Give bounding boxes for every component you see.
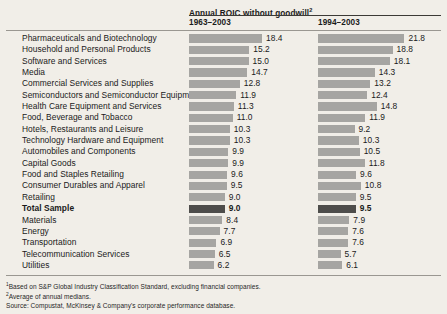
bar <box>189 182 227 190</box>
bar <box>318 205 356 213</box>
bar-value-label: 6.1 <box>346 260 358 271</box>
bar-cell-series-2: 5.7 <box>318 250 440 258</box>
bar-cell-series-2: 14.3 <box>318 68 440 76</box>
bar-cell-series-1: 6.9 <box>189 239 309 247</box>
chart-row: Consumer Durables and Apparel9.510.8 <box>0 180 447 191</box>
bar-cell-series-2: 9.2 <box>318 125 440 133</box>
column-header-period-2: 1994–2003 <box>318 18 360 27</box>
chart-row: Retailing9.09.5 <box>0 192 447 203</box>
chart-row: Capital Goods9.911.8 <box>0 158 447 169</box>
chart-row: Telecommunication Services6.55.7 <box>0 249 447 260</box>
chart-row: Pharmaceuticals and Biotechnology18.421.… <box>0 33 447 44</box>
chart-row-total-sample: Total Sample9.09.5 <box>0 203 447 214</box>
bar <box>318 68 375 76</box>
row-label: Software and Services <box>22 56 107 67</box>
metric-title-text: Annual ROIC without goodwill <box>189 9 309 18</box>
chart-row: Materials8.47.9 <box>0 215 447 226</box>
row-label: Semiconductors and Semiconductor Equipme… <box>22 90 201 101</box>
chart-row: Food and Staples Retailing9.69.6 <box>0 169 447 180</box>
chart-row: Utilities6.26.1 <box>0 260 447 271</box>
chart-row: Transportation6.97.6 <box>0 237 447 248</box>
bar-cell-series-1: 7.7 <box>189 227 309 235</box>
row-label: Telecommunication Services <box>22 249 129 260</box>
chart-row: Technology Hardware and Equipment10.310.… <box>0 135 447 146</box>
bar-cell-series-2: 11.8 <box>318 159 440 167</box>
bar-cell-series-2: 13.2 <box>318 80 440 88</box>
row-label: Materials <box>22 215 56 226</box>
bar-value-label: 15.2 <box>253 44 270 55</box>
footnotes-block: 1Based on S&P Global Industry Classifica… <box>6 281 441 310</box>
bar-value-label: 11.9 <box>369 112 385 123</box>
bar-cell-series-2: 7.9 <box>318 216 440 224</box>
bar-cell-series-2: 21.8 <box>318 34 440 42</box>
bar <box>189 171 227 179</box>
bar <box>189 80 240 88</box>
bar-value-label: 18.1 <box>394 56 411 67</box>
bar-value-label: 11.8 <box>369 158 385 169</box>
bar-value-label: 10.8 <box>365 180 382 191</box>
bar <box>189 159 228 167</box>
row-label: Media <box>22 67 45 78</box>
row-label: Retailing <box>22 192 55 203</box>
bar-cell-series-2: 10.3 <box>318 136 440 144</box>
chart-row: Energy7.77.6 <box>0 226 447 237</box>
header-rule-top <box>189 15 441 16</box>
bar-cell-series-2: 9.6 <box>318 171 440 179</box>
row-label: Utilities <box>22 260 49 271</box>
bar <box>318 239 348 247</box>
bar-cell-series-1: 6.2 <box>189 261 309 269</box>
bar-cell-series-2: 18.1 <box>318 57 440 65</box>
chart-row: Household and Personal Products15.218.8 <box>0 44 447 55</box>
footnote-text: Based on S&P Global Industry Classificat… <box>9 283 261 290</box>
chart-row: Software and Services15.018.1 <box>0 56 447 67</box>
chart-row: Automobiles and Components9.910.5 <box>0 146 447 157</box>
bar-value-label: 9.5 <box>231 180 243 191</box>
metric-title-superscript: 2 <box>309 7 312 13</box>
bar-value-label: 9.5 <box>360 192 372 203</box>
bar-value-label: 7.7 <box>224 226 236 237</box>
bar-cell-series-1: 11.9 <box>189 91 309 99</box>
bar-cell-series-1: 18.4 <box>189 34 309 42</box>
row-label: Energy <box>22 226 49 237</box>
bar-cell-series-2: 6.1 <box>318 261 440 269</box>
bar-cell-series-2: 9.5 <box>318 193 440 201</box>
metric-title: Annual ROIC without goodwill2 <box>189 9 312 18</box>
bar-value-label: 11.0 <box>237 112 253 123</box>
bar <box>318 193 356 201</box>
bar-value-label: 12.8 <box>244 78 261 89</box>
bar-value-label: 13.2 <box>374 78 391 89</box>
bar <box>318 136 359 144</box>
bar <box>189 250 215 258</box>
bar-value-label: 10.3 <box>234 124 251 135</box>
bar <box>189 193 225 201</box>
bar-value-label: 9.0 <box>229 203 241 214</box>
bar-cell-series-1: 9.0 <box>189 205 309 213</box>
chart-row: Commercial Services and Supplies12.813.2 <box>0 78 447 89</box>
row-label: Capital Goods <box>22 158 76 169</box>
row-label: Technology Hardware and Equipment <box>22 135 163 146</box>
bar <box>318 80 370 88</box>
bar <box>318 114 365 122</box>
bar-value-label: 10.3 <box>363 135 380 146</box>
bar-value-label: 18.8 <box>397 44 414 55</box>
bar-value-label: 9.0 <box>229 192 241 203</box>
bar-cell-series-1: 9.9 <box>189 159 309 167</box>
bar-cell-series-1: 9.5 <box>189 182 309 190</box>
bar-cell-series-2: 14.8 <box>318 102 440 110</box>
bar <box>189 136 230 144</box>
bar-value-label: 11.3 <box>238 101 254 112</box>
row-label: Automobiles and Components <box>22 146 136 157</box>
bar <box>189 91 236 99</box>
bar <box>189 57 249 65</box>
metric-title-block: Annual ROIC without goodwill2 <box>189 2 439 14</box>
bar-value-label: 9.9 <box>232 158 244 169</box>
bar <box>189 261 214 269</box>
chart-row: Hotels, Restaurants and Leisure10.39.2 <box>0 124 447 135</box>
bar-cell-series-1: 6.5 <box>189 250 309 258</box>
source-line: Source: Compustat, McKinsey & Company's … <box>6 302 441 310</box>
bar-cell-series-1: 9.0 <box>189 193 309 201</box>
bar <box>318 182 361 190</box>
row-label: Pharmaceuticals and Biotechnology <box>22 33 157 44</box>
chart-row: Food, Beverage and Tobacco11.011.9 <box>0 112 447 123</box>
bar-value-label: 9.6 <box>231 169 243 180</box>
